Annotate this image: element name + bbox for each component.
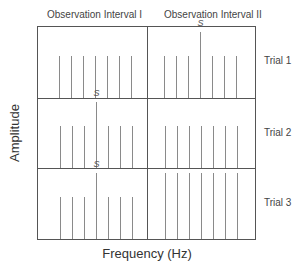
trial-label-3: Trial 3 xyxy=(264,197,291,208)
y-axis-label: Amplitude xyxy=(7,93,22,173)
diagram-grid xyxy=(0,0,305,272)
x-axis-label: Frequency (Hz) xyxy=(102,246,192,261)
trial-label-1: Trial 1 xyxy=(264,55,291,66)
signal-marker: S xyxy=(94,88,100,98)
signal-marker: S xyxy=(198,18,204,28)
diagram-frame xyxy=(38,27,256,240)
trial-label-2: Trial 2 xyxy=(264,127,291,138)
signal-marker: S xyxy=(94,159,100,169)
